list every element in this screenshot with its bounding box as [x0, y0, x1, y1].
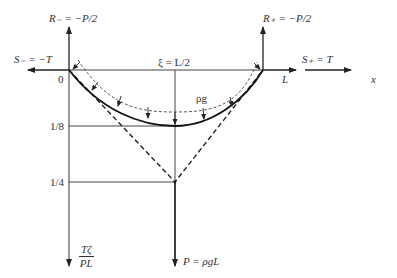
- y-axis-label-num: Tζ: [79, 244, 94, 257]
- cable-diagram: [0, 0, 397, 278]
- midpoint-label: ξ = L/2: [158, 57, 190, 68]
- p-force-label: P = ρgL: [183, 256, 219, 267]
- y-axis-label: Tζ PL: [79, 244, 94, 269]
- origin-label: 0: [58, 74, 64, 85]
- y-axis-label-den: PL: [79, 257, 94, 269]
- tick-1-4-label: 1/4: [50, 177, 64, 188]
- x-axis-label: x: [371, 74, 376, 85]
- tick-1-8-label: 1/8: [50, 121, 64, 132]
- s-plus-label: S₊ = T: [302, 54, 333, 65]
- load-label: ρg: [196, 93, 207, 104]
- cable-curve: [69, 70, 263, 126]
- load-arrows: [73, 62, 260, 124]
- r-plus-label: R₊ = −P/2: [263, 13, 311, 24]
- s-minus-label: S₋ = −T: [14, 54, 52, 65]
- end-label: L: [282, 74, 288, 85]
- r-minus-label: R₋ = −P/2: [49, 13, 97, 24]
